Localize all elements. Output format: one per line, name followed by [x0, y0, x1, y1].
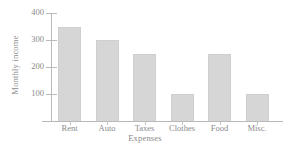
y-tick-mark: [46, 67, 57, 68]
y-tick-label: 200: [0, 62, 44, 71]
x-axis-title: Expenses: [0, 133, 290, 143]
bar: [171, 94, 194, 121]
x-tick-label: Misc.: [227, 123, 287, 133]
bar: [246, 94, 269, 121]
y-tick-mark: [46, 40, 57, 41]
bar: [208, 54, 231, 122]
y-tick-label: 400: [0, 8, 44, 17]
bar-chart: Monthly income 100200300400 RentAutoTaxe…: [0, 0, 290, 149]
bar: [58, 27, 81, 122]
y-tick-label: 100: [0, 89, 44, 98]
bar: [133, 54, 156, 122]
bar: [96, 40, 119, 121]
y-tick-mark: [46, 13, 57, 14]
x-axis-line: [42, 121, 283, 122]
y-tick-label: 300: [0, 35, 44, 44]
y-tick-mark: [46, 94, 57, 95]
